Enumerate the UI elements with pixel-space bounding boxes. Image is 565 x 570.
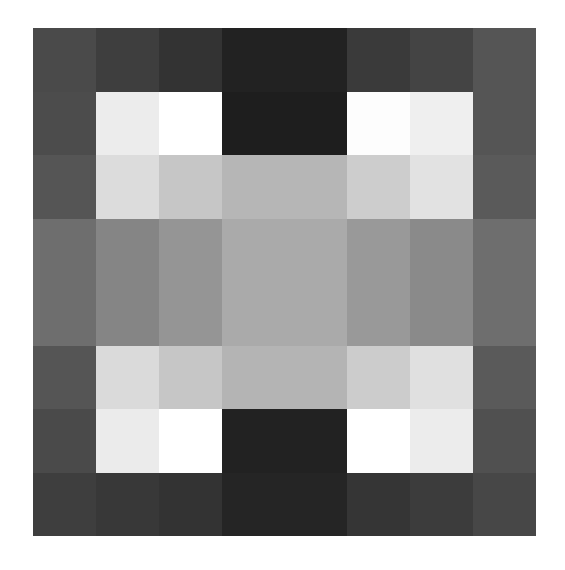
- grid-cell: [33, 92, 96, 156]
- grid-cell: [410, 346, 473, 410]
- grid-cell: [96, 28, 159, 92]
- grid-cell: [473, 92, 536, 156]
- grid-cell: [473, 473, 536, 537]
- grid-cell: [473, 282, 536, 346]
- grid-cell: [410, 473, 473, 537]
- grid-cell: [347, 282, 410, 346]
- grid-cell: [347, 219, 410, 283]
- grid-cell: [410, 92, 473, 156]
- grid-cell: [347, 346, 410, 410]
- pixel-grid: [33, 28, 536, 536]
- grid-cell: [222, 282, 285, 346]
- grid-cell: [96, 473, 159, 537]
- grid-cell: [473, 346, 536, 410]
- grid-cell: [96, 282, 159, 346]
- grid-cell: [96, 92, 159, 156]
- grid-cell: [222, 409, 285, 473]
- grid-cell: [159, 346, 222, 410]
- grid-cell: [96, 219, 159, 283]
- grid-cell: [285, 282, 348, 346]
- grid-cell: [96, 155, 159, 219]
- grid-cell: [410, 219, 473, 283]
- grid-cell: [285, 28, 348, 92]
- grid-cell: [410, 28, 473, 92]
- grid-cell: [33, 155, 96, 219]
- grid-cell: [285, 409, 348, 473]
- grid-cell: [159, 219, 222, 283]
- grid-cell: [410, 282, 473, 346]
- grid-cell: [33, 282, 96, 346]
- grid-cell: [159, 409, 222, 473]
- grid-cell: [473, 409, 536, 473]
- grid-cell: [33, 219, 96, 283]
- grid-cell: [222, 219, 285, 283]
- grid-cell: [347, 155, 410, 219]
- grid-cell: [285, 346, 348, 410]
- grid-cell: [473, 155, 536, 219]
- grid-cell: [410, 409, 473, 473]
- grid-cell: [473, 28, 536, 92]
- grid-cell: [347, 409, 410, 473]
- grid-cell: [410, 155, 473, 219]
- grid-cell: [285, 155, 348, 219]
- grid-cell: [222, 92, 285, 156]
- grid-cell: [222, 473, 285, 537]
- grid-cell: [159, 92, 222, 156]
- grid-cell: [159, 282, 222, 346]
- grid-cell: [33, 346, 96, 410]
- grid-cell: [285, 219, 348, 283]
- grid-cell: [347, 473, 410, 537]
- grid-cell: [222, 155, 285, 219]
- grid-cell: [285, 473, 348, 537]
- grid-cell: [347, 28, 410, 92]
- grid-cell: [96, 409, 159, 473]
- grid-cell: [222, 28, 285, 92]
- grid-cell: [33, 409, 96, 473]
- grid-cell: [159, 155, 222, 219]
- grid-cell: [159, 473, 222, 537]
- image-canvas: [0, 0, 565, 570]
- grid-cell: [285, 92, 348, 156]
- grid-cell: [96, 346, 159, 410]
- grid-cell: [33, 28, 96, 92]
- grid-cell: [222, 346, 285, 410]
- grid-cell: [347, 92, 410, 156]
- grid-cell: [159, 28, 222, 92]
- grid-cell: [33, 473, 96, 537]
- grid-cell: [473, 219, 536, 283]
